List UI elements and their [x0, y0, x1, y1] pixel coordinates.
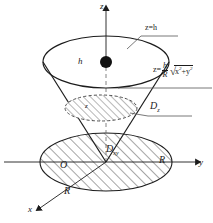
cone-equation-fraction: hR — [162, 62, 169, 79]
region-base-subscript: xy — [113, 149, 119, 156]
z-axis-label: z — [100, 2, 104, 11]
cone-diagram: z y x h z=h z=hR√x2+y2 Dz Dxy O R R z — [0, 0, 213, 223]
region-slice-subscript: z — [157, 106, 159, 113]
diagram-canvas — [0, 0, 213, 223]
cone-equation-denominator: R — [162, 71, 169, 79]
leader-line-plane-top — [127, 36, 178, 49]
cross-section-disk — [60, 92, 150, 126]
leader-line-region-slice — [130, 113, 192, 116]
cone-equation-sqrt: √x2+y2 — [170, 65, 193, 75]
base-disk-region — [30, 125, 190, 205]
cone-equation-label: z=hR√x2+y2 — [153, 62, 193, 79]
region-base-label: Dxy — [106, 144, 119, 156]
radius-x-label: R — [64, 186, 70, 196]
height-marker-dot — [100, 56, 112, 68]
cone-equation-radicand: x2+y2 — [174, 65, 193, 75]
slice-height-label: z — [85, 103, 88, 110]
region-slice-label: Dz — [150, 101, 160, 113]
y-axis-label: y — [199, 158, 203, 167]
radius-axis-label: R — [159, 155, 165, 165]
cone-equation-lhs: z= — [153, 65, 161, 74]
origin-label: O — [60, 160, 67, 170]
height-label: h — [78, 57, 83, 66]
sqrt-glyph-icon: √ — [170, 66, 176, 77]
plane-top-equation-label: z=h — [145, 24, 157, 32]
x-axis-label: x — [28, 205, 32, 214]
radicand-y-exponent: 2 — [190, 66, 192, 71]
